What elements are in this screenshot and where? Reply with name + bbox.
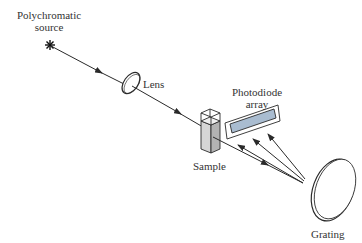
array-label: Photodiode array [222, 86, 292, 110]
spectrometer-diagram [0, 0, 362, 243]
diffracted-beams [238, 134, 305, 183]
lens-label: Lens [143, 78, 164, 90]
array-label-line2: array [222, 98, 292, 110]
source-label-line2: source [4, 21, 94, 33]
grating-label: Grating [311, 228, 345, 240]
array-label-line1: Photodiode [222, 86, 292, 98]
sample-label: Sample [193, 160, 226, 172]
source-label-line1: Polychromatic [4, 9, 94, 21]
sample-cuvette [201, 109, 220, 153]
beam-lens-to-sample [132, 86, 181, 114]
source-label: Polychromatic source [4, 9, 94, 33]
grating-disc [303, 153, 362, 227]
source-star-icon [45, 40, 55, 50]
beam-source-to-lens [51, 46, 102, 73]
photodiode-array [225, 105, 280, 139]
